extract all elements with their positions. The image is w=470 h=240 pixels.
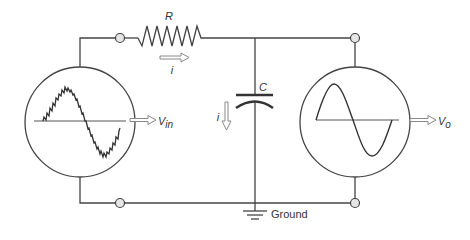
rc-circuit-diagram: R i C i Ground Vin Vo [0,0,470,240]
output-arrow-vo-icon [410,116,436,125]
wire-top-left [80,38,116,67]
terminal-bottom-right [351,199,360,208]
terminal-top-left [116,34,125,43]
output-oscilloscope [300,67,410,177]
wire-bottom-left [80,177,116,203]
terminal-bottom-left [116,199,125,208]
resistor-label: R [165,10,173,22]
current-arrow-right-icon [160,53,189,62]
terminal-top-right [351,34,360,43]
current-label-resistor: i [171,64,174,76]
resistor-icon [138,26,204,46]
input-oscilloscope [25,67,135,177]
capacitor-label: C [259,81,267,93]
ground-label: Ground [271,208,308,220]
current-arrow-down-icon [222,102,231,130]
vo-label: Vo [438,115,451,130]
current-label-capacitor: i [217,111,220,123]
vin-label: Vin [158,115,174,130]
ground-icon [243,211,267,219]
